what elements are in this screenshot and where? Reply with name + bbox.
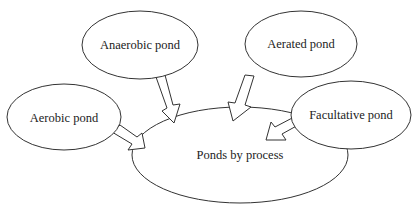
ponds-diagram: Aerobic pond Anaerobic pond Aerated pond… [0,0,415,206]
label-aerated: Aerated pond [267,37,335,51]
label-aerobic: Aerobic pond [30,111,99,125]
arrow-anaerobic [156,75,180,123]
label-facultative: Facultative pond [309,108,393,122]
label-center: Ponds by process [197,148,284,162]
label-anaerobic: Anaerobic pond [100,38,181,52]
